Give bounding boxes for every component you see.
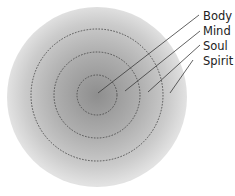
spirit-region: [7, 7, 187, 187]
concentric-circles-diagram: Body Mind Soul Spirit: [0, 0, 235, 196]
label-body: Body: [203, 9, 232, 23]
label-mind: Mind: [203, 24, 231, 38]
label-soul: Soul: [203, 39, 228, 53]
label-spirit: Spirit: [203, 54, 234, 68]
